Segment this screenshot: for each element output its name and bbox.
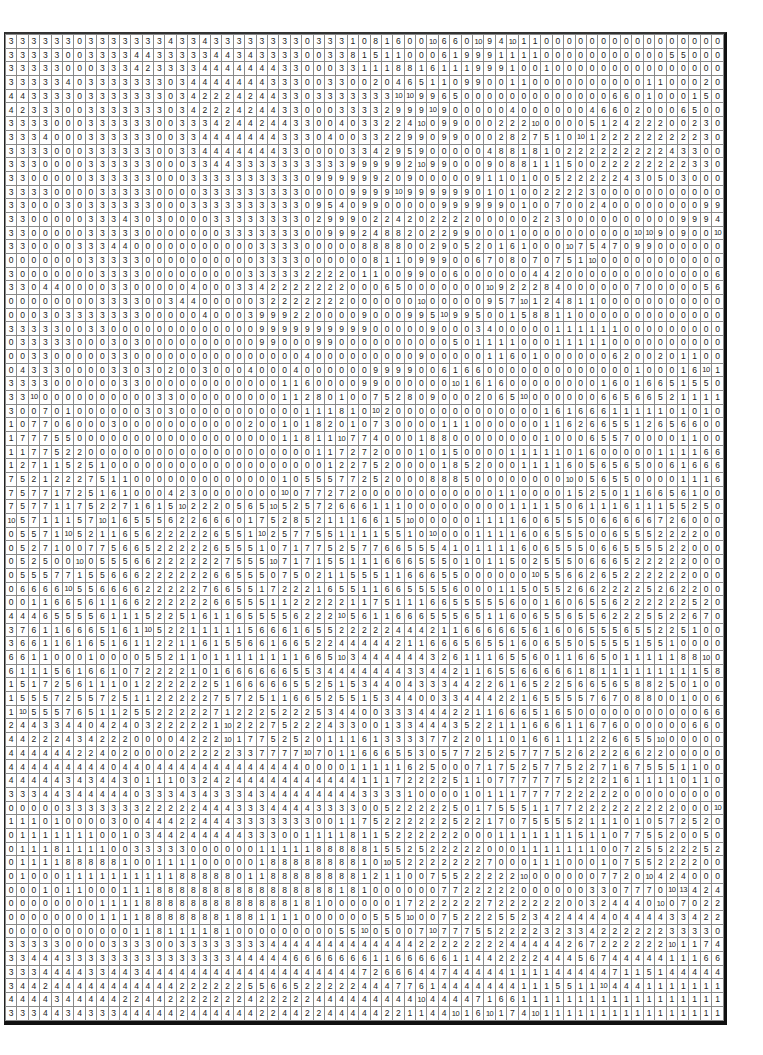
grid-cell: 0 <box>529 582 540 596</box>
grid-cell: 1 <box>507 226 518 240</box>
grid-cell: 0 <box>142 295 153 309</box>
grid-cell: 9 <box>700 199 711 213</box>
grid-cell: 6 <box>97 609 108 623</box>
grid-cell: 2 <box>666 623 677 637</box>
grid-cell: 2 <box>473 678 484 692</box>
grid-cell: 1 <box>359 828 370 842</box>
grid-cell: 4 <box>40 774 51 788</box>
grid-cell: 0 <box>609 911 620 925</box>
grid-cell: 5 <box>541 692 552 706</box>
grid-cell: 0 <box>575 158 586 172</box>
grid-cell: 0 <box>632 35 643 49</box>
grid-cell: 1 <box>632 774 643 788</box>
grid-cell: 6 <box>416 609 427 623</box>
grid-cell: 5 <box>541 815 552 829</box>
grid-cell: 1 <box>370 952 381 966</box>
grid-cell: 4 <box>256 76 267 90</box>
grid-cell: 0 <box>74 377 85 391</box>
grid-cell: 5 <box>97 555 108 569</box>
grid-cell: 6 <box>450 582 461 596</box>
grid-cell: 3 <box>188 158 199 172</box>
grid-cell: 1 <box>40 637 51 651</box>
grid-cell: 3 <box>17 240 28 254</box>
grid-cell: 0 <box>188 240 199 254</box>
grid-cell: 5 <box>347 692 358 706</box>
grid-cell: 6 <box>416 952 427 966</box>
grid-cell: 0 <box>712 568 724 582</box>
grid-cell: 7 <box>666 815 677 829</box>
grid-cell: 6 <box>586 678 597 692</box>
grid-cell: 1 <box>233 733 244 747</box>
grid-cell: 2 <box>211 979 222 993</box>
grid-cell: 1 <box>245 869 256 883</box>
grid-cell: 2 <box>632 158 643 172</box>
grid-cell: 6 <box>621 760 632 774</box>
grid-cell: 0 <box>598 48 609 62</box>
grid-cell: 2 <box>28 733 39 747</box>
grid-cell: 2 <box>165 678 176 692</box>
grid-cell: 0 <box>655 185 666 199</box>
grid-cell: 8 <box>324 856 335 870</box>
grid-cell: 3 <box>404 733 415 747</box>
grid-cell: 0 <box>6 869 17 883</box>
grid-cell: 0 <box>176 281 187 295</box>
grid-cell: 5 <box>393 527 404 541</box>
grid-cell: 1 <box>131 637 142 651</box>
grid-cell: 1 <box>85 650 96 664</box>
grid-cell: 10 <box>586 254 597 268</box>
grid-cell: 0 <box>438 377 449 391</box>
grid-cell: 0 <box>393 459 404 473</box>
grid-cell: 0 <box>233 856 244 870</box>
grid-cell: 0 <box>393 199 404 213</box>
grid-cell: 4 <box>359 938 370 952</box>
grid-cell: 4 <box>678 965 689 979</box>
grid-cell: 0 <box>74 48 85 62</box>
grid-cell: 0 <box>51 924 62 938</box>
grid-cell: 2 <box>176 678 187 692</box>
grid-cell: 0 <box>370 349 381 363</box>
grid-cell: 8 <box>518 158 529 172</box>
grid-cell: 4 <box>245 787 256 801</box>
grid-cell: 4 <box>154 1006 165 1020</box>
grid-cell: 2 <box>324 295 335 309</box>
grid-cell: 3 <box>6 322 17 336</box>
grid-cell: 6 <box>598 390 609 404</box>
grid-cell: 0 <box>62 650 73 664</box>
grid-cell: 0 <box>518 212 529 226</box>
grid-cell: 2 <box>575 801 586 815</box>
grid-cell: 1 <box>518 48 529 62</box>
grid-cell: 5 <box>51 609 62 623</box>
grid-cell: 6 <box>518 637 529 651</box>
grid-cell: 0 <box>416 500 427 514</box>
grid-cell: 2 <box>165 568 176 582</box>
grid-cell: 2 <box>188 815 199 829</box>
grid-cell: 0 <box>632 787 643 801</box>
grid-cell: 0 <box>529 363 540 377</box>
grid-cell: 0 <box>427 267 438 281</box>
grid-cell: 4 <box>347 993 358 1007</box>
grid-cell: 3 <box>245 158 256 172</box>
grid-cell: 3 <box>199 117 210 131</box>
grid-cell: 4 <box>381 664 392 678</box>
grid-cell: 3 <box>450 692 461 706</box>
grid-cell: 0 <box>40 801 51 815</box>
grid-cell: 1 <box>222 678 233 692</box>
grid-cell: 3 <box>119 349 130 363</box>
grid-cell: 1 <box>40 664 51 678</box>
grid-cell: 10 <box>564 473 575 487</box>
grid-cell: 1 <box>461 62 472 76</box>
grid-cell: 7 <box>359 541 370 555</box>
grid-cell: 2 <box>529 924 540 938</box>
grid-cell: 0 <box>347 267 358 281</box>
grid-cell: 0 <box>313 911 324 925</box>
grid-cell: 5 <box>473 924 484 938</box>
grid-cell: 6 <box>302 377 313 391</box>
grid-cell: 8 <box>267 883 278 897</box>
grid-cell: 6 <box>700 705 711 719</box>
grid-cell: 0 <box>712 815 724 829</box>
grid-cell: 1 <box>324 404 335 418</box>
grid-cell: 0 <box>495 267 506 281</box>
grid-cell: 3 <box>370 103 381 117</box>
grid-cell: 5 <box>621 527 632 541</box>
grid-cell: 2 <box>495 746 506 760</box>
